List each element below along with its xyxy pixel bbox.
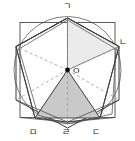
vertex-label-upper-right: ㄴ	[119, 38, 127, 47]
vertex-label-top: ㄱ	[63, 2, 71, 11]
vertex-label-bottom: ㄹ	[62, 128, 70, 137]
geometry-diagram	[0, 0, 135, 141]
geometry-figure: ㄱ ㄴ ㄷ ㄹ ㅁ O	[0, 0, 135, 141]
vertex-label-lower-right: ㄷ	[92, 128, 100, 137]
vertex-label-lower-left: ㅁ	[29, 128, 37, 137]
shaded-light-triangle-shape	[68, 18, 120, 70]
center-point-marker	[65, 68, 70, 73]
center-point-label: O	[73, 67, 80, 75]
